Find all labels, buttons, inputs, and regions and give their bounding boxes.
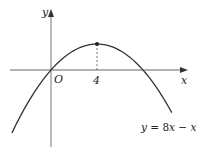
eq-exp: 2: [196, 120, 197, 129]
equation-label: y = 8x − x2: [140, 120, 197, 133]
x-axis-arrow-icon: [180, 67, 188, 73]
eq-eq: = 8: [147, 121, 169, 133]
graph-canvas: y x O 4 y = 8x − x2: [0, 0, 197, 147]
parabola-curve: [12, 44, 172, 133]
vertex-point: [95, 42, 99, 46]
y-axis-label: y: [41, 6, 49, 19]
eq-minus: −: [175, 121, 190, 133]
x-tick-4-label: 4: [92, 74, 100, 87]
y-axis-arrow-icon: [48, 9, 54, 17]
x-axis-label: x: [181, 74, 188, 87]
origin-label: O: [54, 73, 63, 86]
